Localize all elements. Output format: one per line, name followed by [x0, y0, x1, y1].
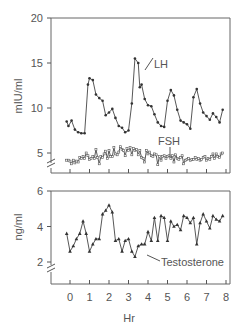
- data-point: [108, 149, 110, 151]
- data-point: [221, 214, 225, 217]
- data-point: [166, 100, 169, 103]
- data-point: [143, 98, 146, 101]
- data-point: [160, 159, 162, 161]
- data-point: [127, 129, 130, 132]
- data-point: [65, 232, 69, 235]
- data-point: [212, 153, 214, 155]
- data-point: [142, 157, 144, 159]
- data-point: [69, 160, 71, 162]
- data-point: [204, 156, 206, 158]
- data-point: [130, 249, 134, 252]
- data-point: [128, 149, 130, 151]
- data-point: [218, 121, 221, 124]
- data-point: [117, 125, 120, 128]
- data-point: [139, 149, 141, 151]
- x-tick-label: 8: [223, 291, 229, 303]
- data-point: [98, 97, 101, 100]
- lower-x-ticks: 012345678: [67, 280, 229, 303]
- hormone-chart: 5101520 mIU/ml LH FSH 246 012345678 ng/m…: [0, 0, 234, 331]
- data-point: [221, 109, 224, 112]
- data-point: [175, 223, 179, 226]
- data-point: [173, 94, 176, 97]
- upper-y-ticks: 5101520: [31, 12, 51, 159]
- lh-series: [65, 57, 224, 134]
- data-point: [205, 219, 209, 222]
- lower-y-ticks: 246: [37, 185, 51, 268]
- data-point: [152, 156, 154, 158]
- x-tick-label: 4: [145, 291, 151, 303]
- data-point: [181, 155, 183, 157]
- data-point: [131, 154, 133, 156]
- data-point: [117, 237, 121, 240]
- data-point: [171, 155, 173, 157]
- data-point: [169, 219, 173, 222]
- data-point: [87, 83, 90, 86]
- data-point: [119, 146, 121, 148]
- data-point: [72, 244, 76, 247]
- upper-y-tick-label: 5: [37, 147, 43, 159]
- data-point: [212, 112, 215, 115]
- x-axis-label: Hr: [123, 312, 135, 324]
- data-point: [127, 237, 131, 240]
- data-point: [208, 226, 212, 229]
- data-point: [159, 214, 163, 217]
- data-point: [72, 159, 74, 161]
- data-point: [183, 163, 185, 165]
- data-point: [150, 105, 153, 108]
- data-point: [153, 216, 157, 219]
- data-point: [157, 164, 159, 166]
- testosterone-line: [67, 205, 223, 256]
- data-point: [215, 153, 217, 155]
- data-point: [105, 150, 107, 152]
- x-tick-label: 3: [125, 291, 131, 303]
- lh-leader-line: [145, 58, 153, 70]
- data-point: [195, 88, 198, 91]
- data-point: [88, 249, 92, 252]
- data-point: [98, 163, 100, 165]
- fsh-annotation: FSH: [158, 135, 180, 147]
- data-point: [87, 155, 89, 157]
- data-point: [175, 154, 177, 156]
- data-point: [78, 232, 82, 235]
- data-point: [123, 149, 125, 151]
- data-point: [77, 161, 79, 163]
- data-point: [88, 77, 91, 80]
- upper-panel: 5101520 mIU/ml LH FSH: [12, 12, 230, 173]
- data-point: [92, 79, 95, 82]
- lower-y-tick-label: 2: [37, 256, 43, 268]
- lower-panel: 246 012345678 ng/ml Testosterone Hr: [12, 185, 230, 324]
- upper-y-tick-label: 15: [31, 57, 43, 69]
- upper-y-axis-label: mIU/ml: [12, 79, 24, 114]
- testosterone-leader-line: [147, 255, 160, 261]
- upper-y-tick-label: 10: [31, 102, 43, 114]
- data-point: [222, 152, 224, 154]
- data-point: [155, 154, 157, 156]
- data-point: [134, 57, 137, 60]
- upper-y-tick-label: 20: [31, 12, 43, 24]
- data-point: [137, 62, 140, 65]
- data-point: [153, 113, 156, 116]
- data-point: [111, 156, 113, 158]
- data-point: [131, 102, 134, 105]
- data-point: [111, 108, 114, 111]
- data-point: [209, 118, 212, 121]
- data-point: [163, 126, 166, 129]
- lh-annotation: LH: [154, 58, 168, 70]
- data-point: [144, 161, 146, 163]
- data-point: [95, 93, 98, 96]
- x-tick-label: 5: [164, 291, 170, 303]
- data-point: [114, 117, 117, 120]
- data-point: [140, 83, 143, 86]
- data-point: [113, 147, 115, 149]
- data-point: [209, 158, 211, 160]
- data-point: [201, 212, 205, 215]
- data-point: [124, 155, 126, 157]
- data-point: [182, 121, 185, 124]
- data-point: [202, 111, 205, 114]
- lower-y-axis-label: ng/ml: [12, 214, 24, 241]
- data-point: [111, 210, 115, 213]
- data-point: [147, 104, 150, 107]
- testosterone-series: [65, 203, 225, 258]
- data-point: [102, 157, 104, 159]
- data-point: [85, 152, 87, 154]
